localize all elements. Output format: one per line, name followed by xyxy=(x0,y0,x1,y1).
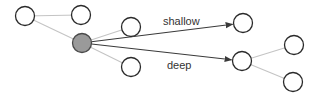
shallow-node xyxy=(234,14,253,33)
edges-layer xyxy=(25,15,294,81)
deep-child-lower xyxy=(284,73,303,92)
node-top xyxy=(72,6,91,25)
node-upper-child xyxy=(122,18,141,37)
root-node xyxy=(73,34,92,53)
deep-node xyxy=(233,52,252,71)
deep-child-upper xyxy=(285,36,304,55)
shallow-label: shallow xyxy=(163,15,200,27)
node-top-left xyxy=(16,7,35,26)
nodes-layer xyxy=(16,6,304,92)
node-lower-child xyxy=(122,58,141,77)
tree-diagram: shallow deep xyxy=(0,0,320,99)
deep-label: deep xyxy=(167,59,191,71)
